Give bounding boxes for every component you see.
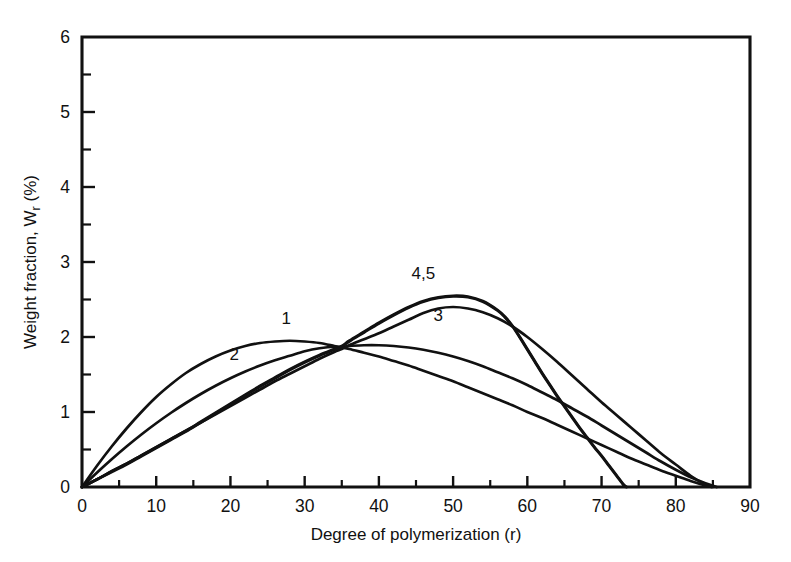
data-series-group [82, 296, 717, 487]
curve-label-3: 3 [434, 306, 443, 325]
x-axis-title: Degree of polymerization (r) [311, 525, 522, 544]
x-tick-label: 30 [295, 496, 315, 516]
y-tick-label: 4 [60, 177, 70, 197]
y-axis-title-unit: (%) [21, 175, 40, 206]
line-chart: 0102030405060708090 0123456 1234,5 Degre… [0, 0, 791, 562]
x-tick-label: 50 [443, 496, 463, 516]
y-tick-label: 1 [60, 402, 70, 422]
curve-1 [82, 341, 713, 487]
x-tick-label: 90 [740, 496, 760, 516]
y-tick-label: 0 [60, 477, 70, 497]
x-tick-label: 20 [221, 496, 241, 516]
x-tick-label: 40 [369, 496, 389, 516]
y-axis-major-ticks [82, 112, 95, 412]
y-tick-label: 2 [60, 327, 70, 347]
y-axis-tick-labels: 0123456 [60, 27, 70, 497]
y-tick-label: 3 [60, 252, 70, 272]
curve-label-1: 1 [281, 309, 290, 328]
x-tick-label: 80 [666, 496, 686, 516]
x-tick-label: 10 [146, 496, 166, 516]
y-axis-title-main: Weight fraction, W [21, 210, 40, 349]
curve-2 [82, 345, 717, 487]
curve-label-2: 2 [229, 345, 238, 364]
y-axis-title: Weight fraction, Wr (%) [21, 175, 43, 349]
curve-label-4: 4,5 [412, 264, 436, 283]
x-tick-label: 70 [592, 496, 612, 516]
x-tick-label: 0 [77, 496, 87, 516]
chart-figure: 0102030405060708090 0123456 1234,5 Degre… [0, 0, 791, 562]
curve-3 [82, 307, 711, 487]
x-axis-tick-labels: 0102030405060708090 [77, 496, 760, 516]
y-tick-label: 6 [60, 27, 70, 47]
plot-frame [82, 37, 750, 487]
y-tick-label: 5 [60, 102, 70, 122]
x-tick-label: 60 [518, 496, 538, 516]
svg-text:Weight fraction, Wr (%): Weight fraction, Wr (%) [21, 175, 43, 349]
